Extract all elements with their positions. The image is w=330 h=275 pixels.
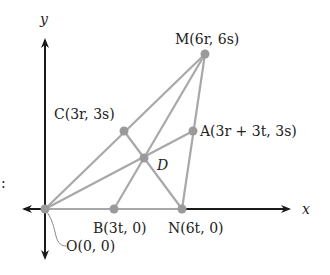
point-C [120, 127, 129, 136]
point-B [110, 205, 119, 214]
label-M: M(6r, 6s) [175, 31, 239, 47]
point-O [41, 205, 50, 214]
label-N: N(6t, 0) [168, 220, 224, 236]
x-axis-label: x [302, 201, 310, 217]
y-axis-label: y [39, 11, 49, 27]
label-A: A(3r + 3t, 3s) [199, 123, 297, 139]
point-N [178, 205, 187, 214]
point-A [189, 127, 198, 136]
label-D: D [156, 157, 168, 173]
triangle-medians-diagram: x y M(6r, 6s) C(3r, 3s) A(3r + 3t, 3s) D… [0, 0, 330, 275]
label-B: B(3t, 0) [93, 220, 147, 236]
label-C: C(3r, 3s) [54, 106, 115, 122]
point-M [201, 50, 210, 59]
label-O: O(0, 0) [66, 238, 115, 254]
median-OA [45, 131, 193, 209]
point-D [140, 154, 149, 163]
leader-line-O [46, 211, 66, 246]
side-colon-mark: : [1, 175, 6, 191]
